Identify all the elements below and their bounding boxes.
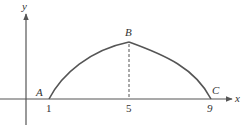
diagram-canvas: y x A B C 1 5 9	[0, 0, 242, 129]
curve-ab	[49, 42, 129, 99]
point-label-c: C	[212, 84, 220, 96]
point-label-a: A	[35, 86, 43, 98]
x-axis-label: x	[234, 92, 240, 104]
curve-bc	[129, 42, 211, 99]
y-axis-label: y	[21, 0, 27, 12]
tick-label-5: 5	[126, 102, 132, 114]
point-label-b: B	[125, 26, 132, 38]
tick-label-9: 9	[207, 102, 213, 114]
tick-label-1: 1	[46, 102, 52, 114]
